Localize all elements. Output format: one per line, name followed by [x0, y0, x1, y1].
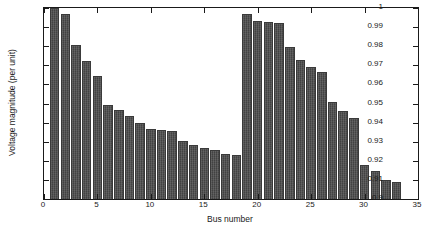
- y-tick-mark: [44, 142, 49, 143]
- bar: [178, 141, 187, 199]
- y-tick-label: 0.95: [367, 99, 383, 107]
- y-tick-mark: [413, 104, 418, 105]
- x-tick-mark: [151, 194, 152, 199]
- y-tick-label: 0.91: [367, 175, 383, 183]
- x-tick-mark: [151, 8, 152, 13]
- x-tick-label: 35: [413, 201, 422, 209]
- bar: [306, 67, 315, 199]
- bar: [61, 14, 70, 199]
- y-tick-mark: [413, 123, 418, 124]
- x-tick-mark: [258, 194, 259, 199]
- x-tick-mark: [258, 8, 259, 13]
- y-tick-label: 0.9: [372, 194, 383, 202]
- bar: [50, 8, 59, 199]
- x-tick-mark: [418, 194, 419, 199]
- y-tick-mark: [44, 180, 49, 181]
- x-tick-mark: [97, 194, 98, 199]
- bar: [125, 116, 134, 199]
- y-tick-mark: [413, 65, 418, 66]
- bar: [103, 105, 112, 199]
- y-tick-mark: [413, 46, 418, 47]
- x-tick-mark: [44, 8, 45, 13]
- y-tick-label: 1: [379, 3, 383, 11]
- x-tick-label: 20: [252, 201, 261, 209]
- y-tick-mark: [413, 84, 418, 85]
- y-tick-mark: [44, 46, 49, 47]
- bar: [328, 102, 337, 199]
- bar: [221, 154, 230, 199]
- x-tick-mark: [311, 194, 312, 199]
- bar: [93, 76, 102, 199]
- x-tick-label: 15: [199, 201, 208, 209]
- x-tick-mark: [204, 194, 205, 199]
- bar: [264, 22, 273, 199]
- x-tick-mark: [365, 194, 366, 199]
- bar: [146, 129, 155, 199]
- bar: [285, 47, 294, 199]
- bar: [392, 182, 401, 199]
- x-tick-label: 10: [145, 201, 154, 209]
- bar: [157, 130, 166, 199]
- x-tick-mark: [311, 8, 312, 13]
- bar: [317, 72, 326, 199]
- bar: [232, 155, 241, 199]
- bar: [200, 148, 209, 199]
- y-tick-label: 0.94: [367, 118, 383, 126]
- y-tick-mark: [413, 27, 418, 28]
- y-axis-label: Voltage magnitude (per unit): [6, 7, 18, 198]
- x-tick-mark: [418, 8, 419, 13]
- bar: [210, 150, 219, 199]
- bar: [242, 14, 251, 199]
- figure: Voltage magnitude (per unit) 0.90.910.92…: [0, 0, 429, 237]
- x-tick-label: 25: [306, 201, 315, 209]
- bar: [253, 21, 262, 199]
- bar: [296, 60, 305, 199]
- x-tick-mark: [97, 8, 98, 13]
- plot-area: [43, 7, 419, 200]
- y-tick-mark: [413, 142, 418, 143]
- bar: [274, 23, 283, 199]
- x-tick-mark: [365, 8, 366, 13]
- y-tick-mark: [44, 123, 49, 124]
- y-tick-mark: [44, 104, 49, 105]
- y-tick-mark: [44, 161, 49, 162]
- bar: [349, 118, 358, 199]
- y-tick-label: 0.98: [367, 41, 383, 49]
- bar: [82, 61, 91, 199]
- x-tick-label: 5: [94, 201, 98, 209]
- x-tick-mark: [204, 8, 205, 13]
- bar: [71, 45, 80, 199]
- y-tick-mark: [44, 84, 49, 85]
- y-tick-mark: [413, 161, 418, 162]
- y-tick-mark: [44, 27, 49, 28]
- y-tick-mark: [44, 65, 49, 66]
- x-tick-mark: [44, 194, 45, 199]
- x-axis-label: Bus number: [43, 215, 417, 224]
- y-tick-label: 0.99: [367, 22, 383, 30]
- y-tick-label: 0.96: [367, 79, 383, 87]
- y-tick-mark: [413, 180, 418, 181]
- y-tick-label: 0.92: [367, 156, 383, 164]
- bar: [135, 123, 144, 199]
- bar: [189, 145, 198, 199]
- x-tick-label: 30: [359, 201, 368, 209]
- bar: [167, 131, 176, 199]
- bar: [338, 111, 347, 199]
- x-tick-label: 0: [41, 201, 45, 209]
- y-tick-label: 0.97: [367, 60, 383, 68]
- bar: [114, 110, 123, 199]
- y-tick-label: 0.93: [367, 137, 383, 145]
- bar-series: [44, 8, 418, 199]
